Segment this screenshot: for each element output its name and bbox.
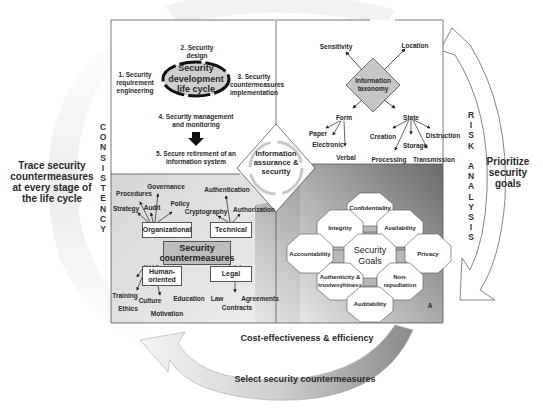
- cm-law: Law: [209, 295, 225, 303]
- taxonomy-distruction: Distruction: [424, 132, 462, 140]
- risk-analysis-label: RISK ANALYSIS: [465, 110, 477, 243]
- legal-box: Legal: [210, 266, 252, 282]
- taxonomy-state: State: [400, 114, 422, 122]
- risk-analysis-text: RISK ANALYSIS: [468, 110, 474, 242]
- lifecycle-step-1: 1. Security requirement engineering: [112, 71, 158, 95]
- goal-confidentiality: Confidentiality: [345, 204, 395, 212]
- lifecycle-step-5: 5. Secure retirement of an information s…: [156, 150, 236, 166]
- taxonomy-creation: Creation: [366, 133, 400, 141]
- cm-governance: Governance: [146, 183, 186, 191]
- cost-effectiveness-text: Cost-effectiveness & efficiency: [222, 333, 392, 344]
- cm-procedures: Procedures: [116, 190, 152, 198]
- prioritize-goals-text: Prioritize security goals: [478, 156, 538, 189]
- security-goals-center: Security Goals: [347, 245, 393, 266]
- information-assurance-label: Information assurance & security: [248, 149, 304, 176]
- cm-agreements: Agreements: [240, 295, 280, 303]
- taxonomy-form: Form: [332, 114, 356, 122]
- trace-countermeasures-text: Trace security countermeasures at every …: [8, 160, 96, 204]
- cm-training: Training: [112, 292, 138, 300]
- cm-ethics: Ethics: [118, 305, 138, 313]
- taxonomy-sensitivity: Sensitivity: [316, 43, 356, 51]
- cm-strategy: Strategy: [112, 205, 140, 213]
- goal-non-repudiation: Non-repudiation: [380, 273, 420, 289]
- organizational-box: Organizational: [142, 222, 192, 238]
- cm-cryptography: Cryptography: [184, 208, 228, 216]
- taxonomy-electronic: Electronic: [310, 141, 346, 149]
- consistency-label: CONSISTENCY: [97, 122, 109, 234]
- taxonomy-verbal: Verbal: [334, 154, 358, 162]
- select-countermeasures-text: Select security countermeasures: [215, 374, 395, 385]
- cm-policy: Policy: [168, 200, 192, 208]
- taxonomy-transmission: Transmission: [412, 156, 456, 164]
- lifecycle-center-label: Security development life cycle: [167, 63, 225, 95]
- goal-integrity: Integrity: [320, 224, 360, 232]
- stray-label-a: A: [425, 302, 435, 310]
- goal-accountability: Accountability: [284, 250, 336, 258]
- cm-culture: Culture: [137, 297, 163, 305]
- goal-auditability: Auditability: [348, 300, 392, 308]
- taxonomy-processing: Processing: [370, 156, 408, 164]
- taxonomy-center-label: Information taxonomy: [355, 77, 391, 93]
- taxonomy-location: Location: [398, 42, 432, 50]
- cm-authentication: Authentication: [202, 186, 252, 194]
- lifecycle-step-3: 3. Security countermeasures implementati…: [230, 73, 278, 97]
- consistency-text: CONSISTENCY: [100, 122, 107, 234]
- technical-box: Technical: [210, 222, 252, 238]
- taxonomy-paper: Paper: [306, 130, 330, 138]
- cm-contracts: Contracts: [220, 304, 254, 312]
- cm-motivation: Motivation: [150, 310, 184, 318]
- lifecycle-step-4: 4. Security management and monitoring: [158, 113, 234, 129]
- goal-privacy: Privacy: [408, 250, 448, 258]
- security-countermeasures-box: Security countermeasures: [163, 241, 231, 265]
- cm-education: Education: [172, 295, 206, 303]
- cm-authorization: Authorization: [232, 206, 276, 214]
- cm-audit: Audit: [142, 204, 162, 212]
- lifecycle-step-2: 2. Security design: [177, 44, 217, 60]
- human-oriented-box: Human-oriented: [142, 266, 182, 286]
- diagram-graphics: [0, 0, 543, 408]
- goal-authenticity: Authenticity & trustwoyhiness: [316, 273, 364, 289]
- goal-availability: Availability: [380, 224, 420, 232]
- taxonomy-storage: Storage: [400, 142, 430, 150]
